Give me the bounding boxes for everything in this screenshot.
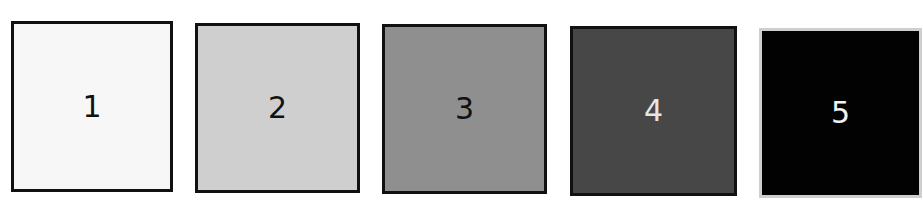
swatch-label-5: 5 (831, 98, 850, 128)
swatch-5: 5 (759, 28, 922, 198)
swatch-4: 4 (570, 26, 737, 196)
swatch-2: 2 (195, 23, 360, 193)
swatch-label-3: 3 (455, 94, 474, 124)
swatch-label-2: 2 (268, 93, 287, 123)
swatch-1: 1 (11, 21, 173, 192)
swatch-label-4: 4 (644, 96, 663, 126)
swatch-label-1: 1 (82, 92, 101, 122)
swatch-3: 3 (382, 24, 547, 194)
